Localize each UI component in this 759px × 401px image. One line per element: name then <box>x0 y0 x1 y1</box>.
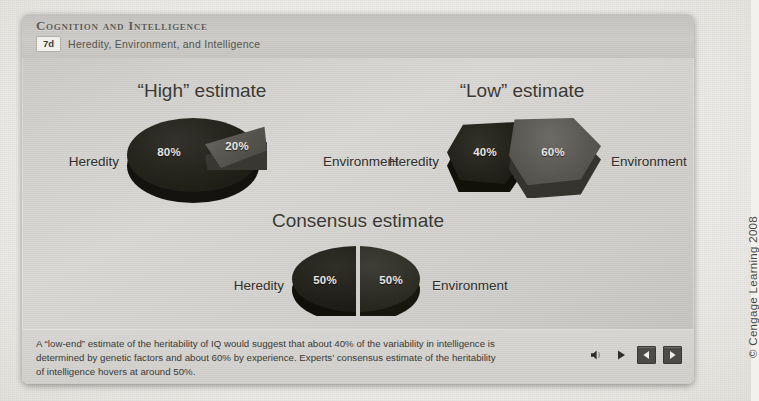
play-icon[interactable] <box>613 348 630 363</box>
pie-label-environment: Environment <box>611 154 687 169</box>
pie-label-heredity: Heredity <box>69 154 119 169</box>
chart-title: Consensus estimate <box>272 210 444 232</box>
page-title: Cognition and Intelligence <box>36 18 208 34</box>
chart-stage: “High” estimate Heredity Environment 80%… <box>22 58 694 330</box>
caption-bar: A “low-end” estimate of the heritability… <box>22 329 694 384</box>
pie-consensus-estimate: Heredity Environment 50% 50% <box>292 246 424 324</box>
pie-value-heredity: 40% <box>473 146 497 158</box>
pie-high-estimate: Heredity Environment 80% 20% <box>127 118 277 204</box>
subtitle-row: 7d Heredity, Environment, and Intelligen… <box>36 36 260 52</box>
pie-value-heredity: 50% <box>313 274 337 286</box>
section-badge: 7d <box>36 36 61 52</box>
volume-icon[interactable] <box>589 348 606 363</box>
pie-label-environment: Environment <box>432 278 508 293</box>
previous-icon[interactable] <box>637 346 656 364</box>
chart-high-estimate: “High” estimate Heredity Environment 80%… <box>52 80 352 210</box>
section-subtitle: Heredity, Environment, and Intelligence <box>68 38 260 50</box>
playback-controls <box>589 346 682 364</box>
pie-value-environment: 60% <box>541 146 565 158</box>
next-icon[interactable] <box>663 346 682 364</box>
pie-slice-environment <box>509 118 601 198</box>
chart-consensus-estimate: Consensus estimate Heredity Environment … <box>208 210 508 330</box>
chart-low-estimate: “Low” estimate Heredity Environment 40% … <box>372 80 672 210</box>
pie-low-estimate: Heredity Environment 40% 60% <box>447 118 597 204</box>
pie-value-environment: 50% <box>379 274 403 286</box>
pie-label-heredity: Heredity <box>234 278 284 293</box>
slide-panel: Cognition and Intelligence 7d Heredity, … <box>22 14 694 384</box>
figure-caption: A “low-end” estimate of the heritability… <box>36 337 506 378</box>
pie-value-heredity: 80% <box>157 146 181 158</box>
pie-value-environment: 20% <box>225 140 249 152</box>
copyright-notice: © Cengage Learning 2008 <box>747 216 759 358</box>
chart-title: “High” estimate <box>138 80 267 102</box>
pie-label-heredity: Heredity <box>389 154 439 169</box>
chart-title: “Low” estimate <box>460 80 585 102</box>
slide-header: Cognition and Intelligence 7d Heredity, … <box>22 14 694 58</box>
